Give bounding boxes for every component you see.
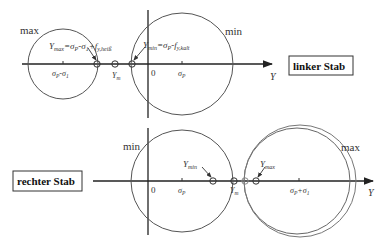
top-ym-label: Ym [112, 71, 120, 81]
top-left-center-label: σP-σ1 [52, 69, 69, 79]
bottom-sigma-p-label: σP [178, 186, 186, 196]
bottom-ymin-label: Ymin [183, 159, 197, 170]
bottom-min-label: min [123, 140, 141, 152]
top-min-label: min [225, 25, 243, 37]
bottom-box-label: rechter Stab [17, 175, 75, 187]
top-ymin-equation: Ymin=σP-fy,kalt [143, 40, 190, 51]
top-diagram: max min Ymax=σP-σ1+fy,heiß Ymin=σP-fy,ka… [20, 10, 353, 118]
bottom-axis-y-label: Y [368, 187, 375, 198]
top-zero-label: 0 [151, 68, 156, 78]
bottom-ym-label: Ym [230, 186, 238, 196]
top-max-label: max [20, 24, 39, 36]
top-ymax-equation: Ymax=σP-σ1+fy,heiß [49, 41, 111, 52]
bottom-right-center-label: σP+σ1 [290, 186, 310, 196]
bottom-ymin-pointer [202, 167, 211, 177]
top-axis-y-label: Y [270, 71, 277, 82]
top-sigma-p-label: σP [178, 69, 186, 79]
bottom-zero-label: 0 [151, 185, 156, 195]
bottom-diagram: min max Ymin Ymax 0 σP Ym σP+σ1 Y rechte… [13, 125, 375, 237]
top-box-label: linker Stab [293, 60, 345, 72]
mohr-circle-diagram: max min Ymax=σP-σ1+fy,heiß Ymin=σP-fy,ka… [0, 0, 386, 249]
bottom-max-label: max [341, 141, 360, 153]
bottom-ymax-label: Ymax [260, 159, 275, 170]
